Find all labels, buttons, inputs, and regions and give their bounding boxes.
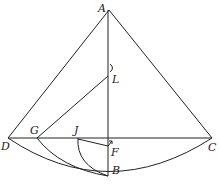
label-D: D bbox=[0, 140, 10, 153]
label-L: L bbox=[111, 73, 119, 86]
label-J: J bbox=[72, 124, 79, 137]
segment-AC bbox=[109, 10, 212, 138]
label-A: A bbox=[97, 2, 106, 15]
diagram-canvas: A B C D F G J L bbox=[0, 0, 220, 186]
label-F: F bbox=[110, 146, 119, 159]
angle-arc-L bbox=[110, 64, 113, 72]
segment-JF bbox=[78, 139, 108, 146]
label-C: C bbox=[208, 141, 217, 154]
segment-GL bbox=[37, 76, 108, 138]
label-B: B bbox=[111, 164, 120, 177]
geometry-diagram: A B C D F G J L bbox=[0, 0, 220, 186]
label-G: G bbox=[30, 124, 39, 137]
